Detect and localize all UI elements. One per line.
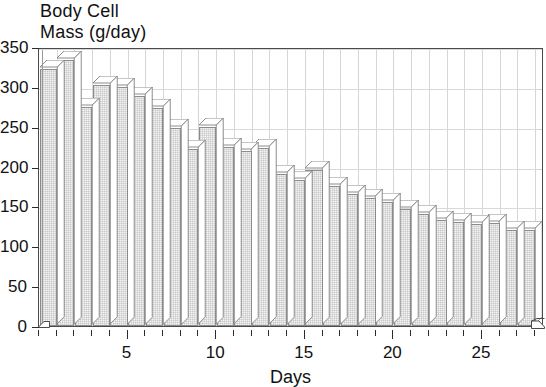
x-axis-tick-minor (162, 330, 163, 336)
chart-title-line-2: Mass (g/day) (40, 22, 146, 43)
x-axis-tick-minor (463, 330, 464, 336)
x-axis-tick-minor (197, 330, 198, 336)
x-axis-tick-minor (516, 330, 517, 336)
x-axis-tick-minor (499, 330, 500, 336)
x-axis-tick-minor (534, 330, 535, 336)
y-axis-tick-label: 250 (0, 119, 27, 136)
chart-title-line-1: Body Cell (40, 1, 119, 22)
x-axis-tick-major (304, 330, 305, 339)
x-axis-tick-minor (268, 330, 269, 336)
y-axis-tick-label: 150 (0, 198, 27, 215)
x-axis-tick-minor (446, 330, 447, 336)
y-axis-tick-label: 200 (0, 159, 27, 176)
bar-series (39, 49, 542, 326)
y-axis-tick-label: 300 (0, 79, 27, 96)
x-axis-tick-minor (251, 330, 252, 336)
x-axis-tick-minor (91, 330, 92, 336)
x-axis-tick-major (392, 330, 393, 339)
bar (40, 62, 64, 326)
x-axis-tick-label: 20 (372, 344, 412, 361)
x-axis-left-wedge (38, 318, 50, 328)
y-axis-tick (32, 168, 39, 169)
y-axis-tick (32, 48, 39, 49)
x-axis-tick-minor (410, 330, 411, 336)
x-axis-tick-minor (38, 330, 39, 336)
x-axis-tick-label: 5 (107, 344, 147, 361)
x-axis-tick-minor (73, 330, 74, 336)
x-axis-tick-minor (180, 330, 181, 336)
y-axis-tick-label: 50 (0, 278, 27, 295)
y-axis-tick-label: 100 (0, 238, 27, 255)
x-axis-tick-major (215, 330, 216, 339)
y-axis-tick (32, 327, 39, 328)
y-axis-tick (32, 88, 39, 89)
y-axis-tick (32, 128, 39, 129)
x-axis-tick-label: 10 (195, 344, 235, 361)
y-axis-tick (32, 287, 39, 288)
y-axis-inner-spine (42, 50, 43, 328)
x-axis-tick-major (127, 330, 128, 339)
x-axis-tick-minor (144, 330, 145, 336)
x-axis-tick-label: 25 (461, 344, 501, 361)
y-axis-tick-label: 350 (0, 39, 27, 56)
y-axis-tick (32, 247, 39, 248)
x-axis-title: Days (231, 367, 351, 387)
x-axis-right-wedge (531, 318, 545, 329)
x-axis-tick-minor (286, 330, 287, 336)
x-axis-tick-label: 15 (284, 344, 324, 361)
x-axis-tick-minor (56, 330, 57, 336)
x-axis-tick-minor (357, 330, 358, 336)
x-axis-tick-major (481, 330, 482, 339)
x-axis-tick-minor (233, 330, 234, 336)
y-axis-tick-label: 0 (0, 318, 27, 335)
x-axis-tick-minor (375, 330, 376, 336)
plot-area (38, 48, 543, 327)
x-axis-tick-minor (109, 330, 110, 336)
x-axis-tick-minor (322, 330, 323, 336)
y-axis-tick (32, 207, 39, 208)
x-axis-tick-minor (339, 330, 340, 336)
x-axis-tick-minor (428, 330, 429, 336)
